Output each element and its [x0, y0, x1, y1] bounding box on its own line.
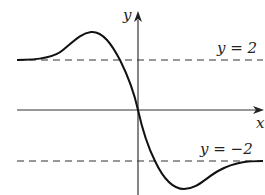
x-axis-label: x	[256, 114, 265, 132]
lower-asymptote-label: y = −2	[199, 140, 253, 158]
graph: y x y = 2 y = −2	[0, 0, 265, 195]
upper-asymptote-label: y = 2	[216, 39, 257, 57]
y-axis-label: y	[122, 6, 132, 24]
